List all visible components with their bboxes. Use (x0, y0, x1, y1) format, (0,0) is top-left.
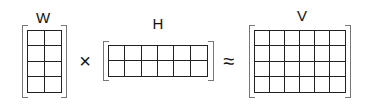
matrix-v-cell (270, 46, 285, 61)
matrix-w-label: W (33, 10, 53, 25)
matrix-v-cell (270, 62, 285, 77)
matrix-v-cell (300, 77, 315, 92)
matrix-h-cell (109, 61, 125, 76)
matrix-v-cell (315, 31, 330, 46)
matrix-v-cell (330, 46, 345, 61)
approx-operator: ≈ (219, 51, 239, 71)
matrix-h-cell (191, 61, 207, 76)
matrix-v-cell (285, 62, 300, 77)
matrix-h-label: H (148, 16, 168, 31)
matrix-v-cell (270, 31, 285, 46)
matrix-v-cell (330, 31, 345, 46)
matrix-v-cell (255, 46, 270, 61)
matrix-v-cell (285, 46, 300, 61)
matrix-v-cell (255, 77, 270, 92)
matrix-w-cell (45, 31, 62, 46)
matrix-w-cell (28, 46, 45, 61)
matrix-v-cell (285, 77, 300, 92)
matrix-v-cell (255, 31, 270, 46)
matrix-w-cell (28, 77, 45, 92)
matrix-v-cell (300, 31, 315, 46)
matrix-v-cell (255, 62, 270, 77)
matrix-h-cell (142, 61, 158, 76)
matrix-w-cell (28, 62, 45, 77)
matrix-w-cell (45, 46, 62, 61)
matrix-w-cell (45, 77, 62, 92)
matrix-v-cell (285, 31, 300, 46)
matrix-w-grid (27, 30, 62, 93)
matrix-v-grid (254, 30, 346, 93)
matrix-h-cell (158, 61, 174, 76)
matrix-h-cell (174, 61, 190, 76)
matrix-h-cell (125, 46, 141, 61)
matrix-v-cell (300, 62, 315, 77)
matrix-h-cell (109, 46, 125, 61)
matrix-w-cell (45, 62, 62, 77)
matrix-h-cell (125, 61, 141, 76)
matrix-v-cell (315, 46, 330, 61)
matrix-h-right-bracket (208, 41, 214, 81)
matrix-w-cell (28, 31, 45, 46)
matrix-v-cell (315, 62, 330, 77)
matrix-h-cell (142, 46, 158, 61)
matrix-h-grid (108, 45, 208, 77)
matrix-v-cell (270, 77, 285, 92)
matrix-v-cell (330, 62, 345, 77)
matrix-v-cell (300, 46, 315, 61)
matrix-h-cell (191, 46, 207, 61)
matrix-v-cell (315, 77, 330, 92)
multiply-operator: × (75, 51, 95, 71)
matrix-v-cell (330, 77, 345, 92)
matrix-v-label: V (292, 8, 312, 23)
matrix-h-cell (174, 46, 190, 61)
matrix-h-cell (158, 46, 174, 61)
